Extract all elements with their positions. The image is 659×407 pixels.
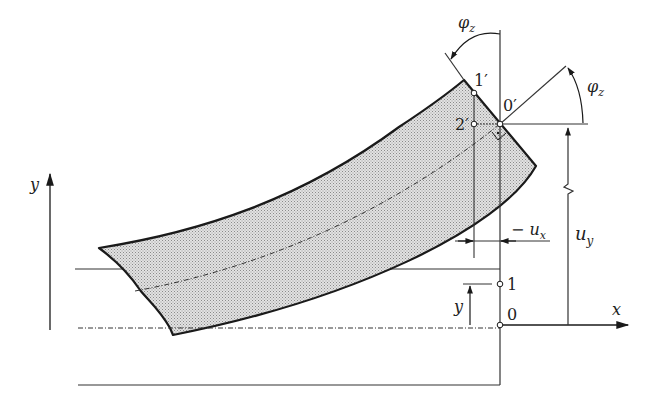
point-0 <box>497 322 503 328</box>
label-2prime: 2′ <box>455 115 469 134</box>
label-1prime: 1′ <box>474 71 488 90</box>
phi-right-label: φz <box>587 77 604 99</box>
label-0prime: 0′ <box>503 96 517 115</box>
uy-label: uy <box>575 223 594 248</box>
label-0: 0 <box>507 305 517 324</box>
right-angle-dot <box>497 132 499 134</box>
uy-dimension-line <box>564 128 573 325</box>
y-axis-label: y <box>29 175 40 194</box>
ux-label: − ux <box>511 220 547 242</box>
label-1: 1 <box>507 275 517 294</box>
point-0prime <box>497 121 503 127</box>
phi-right-arc <box>568 68 583 123</box>
point-1 <box>497 281 503 287</box>
local-y-label: y <box>453 297 464 316</box>
rotated-normal-line <box>500 66 566 124</box>
beam-deflection-diagram: x y φz φz 1′ 0′ 2′ 1 0 − ux uy y <box>0 0 659 407</box>
point-2prime <box>471 121 477 127</box>
point-1prime <box>471 90 477 96</box>
x-axis-label: x <box>612 300 621 319</box>
phi-top-label: φz <box>458 13 475 35</box>
rotated-section-line <box>445 53 464 80</box>
phi-top-arc <box>451 33 500 59</box>
